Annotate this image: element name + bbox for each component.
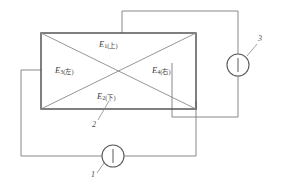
zone-label-left: E3(左) [55,66,74,76]
zone-bottom-chinese: (下) [105,94,115,101]
zone-left-chinese: (左) [63,68,73,75]
callout-label-1: 1 [91,171,95,179]
circuit-diagram-figure: E1(上) E3(左) E4(右) E2(下) 2 1 3 [0,0,283,181]
leader-line-callout-3 [247,44,257,56]
zone-label-bottom: E2(下) [97,92,116,102]
callout-label-3: 3 [258,35,262,43]
leader-line-callout-2 [98,101,109,120]
callout-label-2: 2 [92,121,96,129]
circuit-schematic-svg [0,0,283,181]
zone-label-top: E1(上) [99,40,118,50]
zone-right-chinese: (右) [160,68,170,75]
zone-label-right: E4(右) [152,66,171,76]
wire-box-left-to-bottom-meter [21,70,102,156]
bottom-meter [102,145,124,167]
leader-line-callout-1 [97,163,104,173]
bottom-meter-circuit-wires [21,70,196,156]
zone-top-chinese: (上) [107,42,117,49]
right-meter [227,54,249,76]
